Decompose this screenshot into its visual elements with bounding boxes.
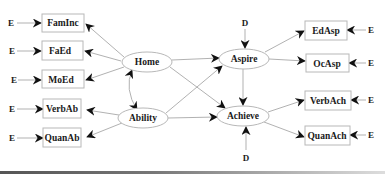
- node-faminc: FamInc: [42, 14, 84, 32]
- svg-text:Achieve: Achieve: [227, 111, 259, 121]
- error-label-faminc: E: [8, 18, 14, 28]
- disturbance-label-aspire: D: [242, 18, 249, 28]
- error-label-ocasp: E: [368, 58, 374, 68]
- svg-text:Ability: Ability: [129, 113, 157, 123]
- node-verbab: VerbAb: [43, 99, 81, 118]
- svg-text:QuanAch: QuanAch: [307, 131, 347, 141]
- error-label-verbach: E: [368, 95, 374, 105]
- left-error-arrows: [17, 23, 43, 138]
- node-quanab: QuanAb: [43, 128, 81, 147]
- covariance-arrow: [129, 70, 137, 110]
- node-edasp: EdAsp: [305, 21, 347, 40]
- svg-text:FaEd: FaEd: [49, 46, 72, 56]
- node-quanach: QuanAch: [305, 126, 350, 145]
- sem-diagram: E E E E E FamInc FaEd MoEd VerbAb QuanAb…: [0, 0, 385, 175]
- node-ability: Ability: [118, 108, 168, 128]
- right-error-arrows: [347, 30, 366, 135]
- error-label-edasp: E: [368, 25, 374, 35]
- svg-text:QuanAb: QuanAb: [45, 133, 80, 143]
- node-ocasp: OcAsp: [306, 54, 349, 72]
- svg-text:VerbAch: VerbAch: [310, 96, 347, 106]
- error-label-quanab: E: [9, 133, 15, 143]
- disturbance-label-achieve: D: [243, 153, 250, 163]
- node-moed: MoEd: [42, 70, 84, 88]
- svg-text:Home: Home: [135, 57, 159, 67]
- node-verbach: VerbAch: [305, 91, 351, 110]
- svg-text:OcAsp: OcAsp: [313, 59, 340, 69]
- svg-text:FamInc: FamInc: [47, 18, 79, 28]
- error-label-verbab: E: [9, 104, 15, 114]
- node-faed: FaEd: [42, 41, 83, 60]
- svg-text:VerbAb: VerbAb: [46, 104, 78, 114]
- svg-text:EdAsp: EdAsp: [312, 26, 339, 36]
- svg-text:Aspire: Aspire: [231, 54, 258, 64]
- bottom-divider: [0, 171, 385, 174]
- node-aspire: Aspire: [219, 49, 269, 69]
- structural-arrows: [166, 29, 305, 150]
- error-label-faed: E: [9, 46, 15, 56]
- svg-text:MoEd: MoEd: [48, 75, 74, 85]
- error-label-moed: E: [11, 75, 17, 85]
- node-home: Home: [122, 52, 172, 72]
- node-achieve: Achieve: [217, 106, 269, 126]
- error-label-quanach: E: [368, 130, 374, 140]
